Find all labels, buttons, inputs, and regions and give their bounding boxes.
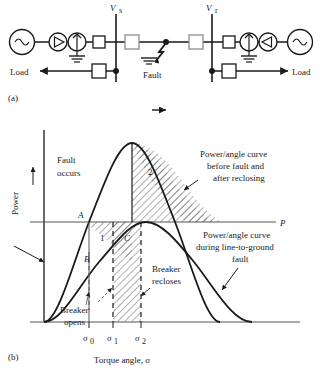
tick-label-sigma1: σ <box>107 333 112 343</box>
load-left-label: Load <box>10 67 29 77</box>
amplifier-left <box>49 33 67 51</box>
tick-label-sigma1-sub: 1 <box>114 337 118 346</box>
figure-container: V s Fault V r <box>0 0 328 371</box>
breaker-load-left <box>92 64 106 78</box>
power-angle-chart: P Power Torque angle, σ σ 0 σ 1 σ 2 1 2 … <box>8 130 300 365</box>
y-axis-label: Power <box>10 192 20 215</box>
point-A-label: A <box>77 210 84 220</box>
prefault-leader <box>184 180 198 190</box>
bus-source-sub: s <box>119 6 122 15</box>
breaker-right-bus <box>223 36 235 48</box>
transformer-right <box>240 33 258 62</box>
panel-a-label: (a) <box>8 93 18 103</box>
tick-label-sigma2: σ <box>135 333 140 343</box>
x-axis-label: Torque angle, σ <box>94 355 151 365</box>
transformer-left <box>68 33 86 62</box>
annotation-prefault-line1: Power/angle curve <box>200 149 267 159</box>
annotation-prefault-line2: before fault and <box>207 161 264 171</box>
fault-occurs-leader <box>14 246 44 262</box>
bus-source-label: V <box>110 3 117 13</box>
ground-left <box>69 56 85 62</box>
annotation-faultcurve-line2: during line-to-ground <box>196 242 274 252</box>
figure-svg: V s Fault V r <box>0 0 328 371</box>
point-B-label: B <box>84 254 90 264</box>
bus-receiving-label: V <box>206 3 213 13</box>
fault-label: Fault <box>143 70 162 80</box>
amplifier-right <box>259 33 277 51</box>
annotation-faultcurve-line3: fault <box>232 254 249 264</box>
annotation-breaker-opens-line2: opens <box>64 317 85 327</box>
bus-receiving-sub: r <box>215 6 218 15</box>
circuit-diagram: V s Fault V r <box>8 3 313 103</box>
annotation-faultcurve-line1: Power/angle curve <box>203 230 270 240</box>
ground-right <box>241 56 257 62</box>
faultcurve-leader <box>222 268 238 290</box>
fault-bolt-icon <box>141 39 169 64</box>
tick-label-sigma0: σ <box>83 333 88 343</box>
tick-label-sigma0-sub: 0 <box>90 337 94 346</box>
breaker-opens-leader-2 <box>98 288 112 302</box>
breaker-left-bus <box>125 35 139 49</box>
breaker-line-right <box>189 35 203 49</box>
generator-right <box>288 30 313 55</box>
area-2-label: 2 <box>148 167 153 177</box>
breaker-recloses-leader <box>141 288 150 296</box>
constant-power-label: P <box>279 218 286 228</box>
generator-left <box>10 30 35 55</box>
annotation-breaker-recloses-line2: recloses <box>152 276 181 286</box>
load-right-label: Load <box>292 67 311 77</box>
panel-b-label: (b) <box>8 352 19 362</box>
annotation-prefault-line3: after reclosing <box>213 173 265 183</box>
area-1-label: 1 <box>100 233 105 243</box>
area-C-label: C <box>124 233 131 243</box>
annotation-breaker-recloses-line1: Breaker <box>152 264 180 274</box>
tick-label-sigma2-sub: 2 <box>142 337 146 346</box>
annotation-fault-occurs-line1: Fault <box>57 155 76 165</box>
annotation-fault-occurs-line2: occurs <box>57 168 81 178</box>
annotation-breaker-opens-line1: Breaker <box>60 305 88 315</box>
breaker-load-right <box>222 64 236 78</box>
breaker-left-outer <box>93 36 105 48</box>
